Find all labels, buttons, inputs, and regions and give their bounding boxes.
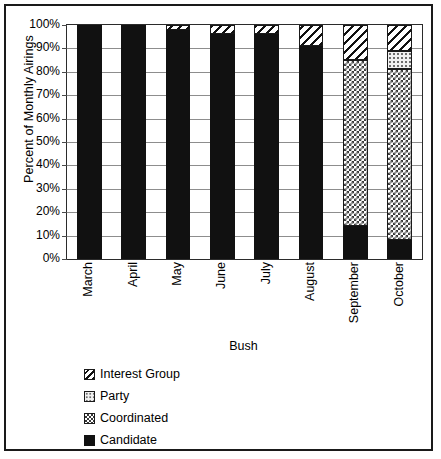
x-tick-slot: June [199,260,243,332]
x-axis-tick-labels: MarchAprilMayJuneJulyAugustSeptemberOcto… [66,260,421,332]
x-tick-slot: August [288,260,332,332]
bar-segment-interest[interactable] [343,25,368,60]
legend-item[interactable]: Coordinated [84,407,314,429]
x-axis-tick-label: June [215,262,228,289]
bar-slot [245,25,289,259]
legend-item[interactable]: Party [84,385,314,407]
y-axis-tick-label: 30% [16,182,60,194]
x-axis-title: Bush [66,339,421,353]
bar-segment-interest[interactable] [254,25,279,34]
x-tick-slot: May [155,260,199,332]
y-axis-tick-label: 60% [16,112,60,124]
legend-label: Party [100,390,129,403]
stacked-bar[interactable] [77,25,102,259]
x-axis-tick-label: July [259,262,272,284]
bar-segment-party[interactable] [387,51,412,70]
x-axis-tick-label: April [126,262,139,287]
bar-slot [378,25,422,259]
bar-segment-interest[interactable] [299,25,324,46]
bar-segment-candidate[interactable] [210,34,235,259]
bar-segment-candidate[interactable] [299,46,324,259]
bar-segment-candidate[interactable] [387,240,412,259]
y-axis-tick-label: 100% [16,18,60,30]
legend-label: Coordinated [100,412,168,425]
y-axis-tick-label: 0% [16,252,60,264]
bar-slot [67,25,111,259]
bar-segment-candidate[interactable] [77,25,102,259]
x-axis-tick-label: August [304,262,317,301]
y-axis-tick-label: 10% [16,229,60,241]
x-tick-slot: September [332,260,376,332]
stacked-bar[interactable] [210,25,235,259]
bars-layer [67,25,422,259]
bar-segment-interest[interactable] [166,25,191,30]
plot-area [66,24,423,260]
y-axis-tick-labels: 100%90%80%70%60%50%40%30%20%10%0% [16,20,60,260]
bar-slot [289,25,333,259]
legend-item[interactable]: Candidate [84,429,314,451]
bar-slot [111,25,155,259]
x-axis-tick-label: March [82,262,95,297]
stacked-bar[interactable] [254,25,279,259]
bar-slot [200,25,244,259]
x-tick-slot: March [66,260,110,332]
y-axis-tick-label: 40% [16,158,60,170]
bar-segment-interest[interactable] [210,25,235,34]
chart-legend: Interest GroupPartyCoordinatedCandidate [84,363,314,451]
bar-segment-coordinated[interactable] [343,60,368,226]
legend-item[interactable]: Interest Group [84,363,314,385]
y-axis-tick-label: 50% [16,135,60,147]
bar-segment-candidate[interactable] [121,25,146,259]
y-axis-tick-label: 80% [16,65,60,77]
bar-segment-coordinated[interactable] [387,69,412,240]
bar-segment-interest[interactable] [387,25,412,51]
x-axis-tick-label: September [348,262,361,323]
legend-label: Interest Group [100,368,180,381]
chart-frame: Percent of Monthly Airings 100%90%80%70%… [4,4,433,451]
legend-label: Candidate [100,434,157,447]
stacked-bar[interactable] [299,25,324,259]
x-axis-tick-label: October [392,262,405,306]
bar-segment-candidate[interactable] [166,30,191,259]
legend-swatch-interest [84,369,95,380]
stacked-bar[interactable] [343,25,368,259]
x-tick-slot: April [110,260,154,332]
legend-swatch-party [84,391,95,402]
x-axis-tick-label: May [170,262,183,286]
bar-slot [333,25,377,259]
x-tick-slot: October [377,260,421,332]
y-axis-tick-label: 70% [16,88,60,100]
bar-segment-candidate[interactable] [343,226,368,259]
stacked-bar[interactable] [121,25,146,259]
stacked-bar[interactable] [166,25,191,259]
y-axis-tick-label: 90% [16,41,60,53]
legend-swatch-coordinated [84,413,95,424]
bar-segment-candidate[interactable] [254,34,279,259]
bar-slot [156,25,200,259]
x-tick-slot: July [244,260,288,332]
stacked-bar[interactable] [387,25,412,259]
legend-swatch-candidate [84,435,95,446]
y-axis-tick-label: 20% [16,205,60,217]
